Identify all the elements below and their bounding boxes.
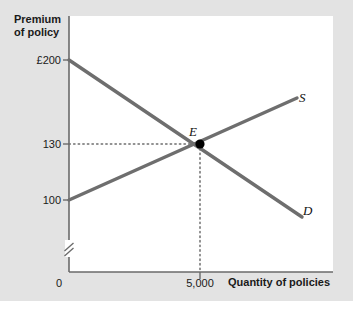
y-tick-label-100: 100: [8, 194, 61, 206]
x-tick-label-5000: 5,000: [175, 277, 225, 289]
x-axis-title: Quantity of policies: [228, 276, 330, 289]
figure-container: Premium of policy Quantity of policies £…: [0, 0, 353, 309]
equilibrium-point-label: E: [189, 124, 197, 140]
supply-curve: [69, 98, 297, 200]
supply-curve-label: S: [299, 90, 306, 106]
y-tick-label-200: £200: [8, 54, 61, 66]
demand-curve-label: D: [303, 203, 312, 219]
equilibrium-point-marker: [195, 139, 204, 148]
y-axis-title-line2: of policy: [14, 26, 68, 39]
demand-curve: [69, 60, 302, 217]
y-axis-title-line1: Premium: [14, 13, 68, 26]
y-axis-break-icon: [65, 240, 75, 257]
supply-demand-chart: [0, 0, 353, 309]
y-axis-title: Premium of policy: [14, 13, 68, 39]
y-tick-label-130: 130: [8, 138, 61, 150]
x-tick-label-origin: 0: [40, 277, 62, 289]
